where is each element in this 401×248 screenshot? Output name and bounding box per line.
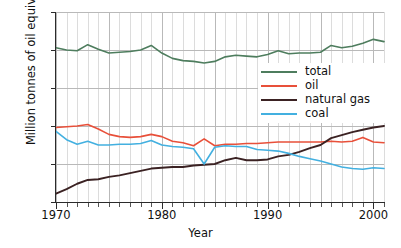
x-tick-mark — [151, 203, 152, 207]
y-tick-mark — [51, 12, 56, 13]
x-tick-mark — [289, 203, 290, 207]
x-tick-mark — [299, 203, 300, 207]
x-tick-mark — [352, 203, 353, 207]
x-tick-mark — [257, 203, 258, 207]
y-axis-line — [55, 12, 56, 203]
y-tick-mark — [51, 126, 56, 127]
x-axis-line — [55, 202, 385, 203]
x-tick-mark — [342, 203, 343, 207]
x-axis-label: Year — [0, 226, 401, 240]
x-tick-mark — [98, 203, 99, 207]
legend-item-oil: oil — [261, 79, 390, 93]
legend-label-coal: coal — [305, 108, 329, 120]
legend-label-total: total — [305, 66, 331, 78]
x-tick-mark — [204, 203, 205, 207]
x-tick-mark — [225, 203, 226, 207]
x-tick-mark — [130, 203, 131, 207]
x-tick-mark — [109, 203, 110, 207]
x-tick-mark — [246, 203, 247, 207]
series-line-total — [56, 39, 384, 63]
energy-consumption-line-chart: Million tonnes of oil equivalent Year to… — [0, 0, 401, 248]
x-tick-mark — [310, 203, 311, 207]
x-tick-mark — [77, 203, 78, 207]
x-tick-mark — [363, 203, 364, 207]
x-tick-mark — [119, 203, 120, 207]
x-tick-mark — [183, 203, 184, 207]
legend-label-oil: oil — [305, 80, 318, 92]
x-tick-mark — [384, 203, 385, 207]
y-tick-mark — [51, 164, 56, 165]
legend-item-coal: coal — [261, 107, 390, 121]
x-tick-label: 2000 — [350, 210, 396, 222]
chart-legend: total oil natural gas coal — [258, 63, 390, 123]
y-tick-mark — [51, 50, 56, 51]
legend-swatch-coal — [261, 113, 297, 115]
y-tick-mark — [51, 88, 56, 89]
legend-item-natural-gas: natural gas — [261, 93, 390, 107]
legend-swatch-oil — [261, 85, 297, 87]
x-tick-mark — [215, 203, 216, 207]
x-tick-mark — [172, 203, 173, 207]
series-line-natural-gas — [56, 126, 384, 194]
series-line-oil — [56, 124, 384, 145]
x-tick-mark — [331, 203, 332, 207]
x-tick-mark — [236, 203, 237, 207]
x-tick-mark — [141, 203, 142, 207]
legend-item-total: total — [261, 65, 390, 79]
x-tick-mark — [278, 203, 279, 207]
x-tick-mark — [321, 203, 322, 207]
legend-swatch-natural-gas — [261, 99, 297, 101]
x-tick-mark — [88, 203, 89, 207]
x-tick-label: 1970 — [33, 210, 79, 222]
legend-label-natural-gas: natural gas — [305, 94, 370, 106]
x-tick-label: 1980 — [139, 210, 185, 222]
legend-swatch-total — [261, 71, 297, 73]
x-tick-label: 1990 — [245, 210, 291, 222]
x-tick-mark — [67, 203, 68, 207]
x-tick-mark — [194, 203, 195, 207]
y-axis-label: Million tonnes of oil equivalent — [24, 0, 38, 152]
